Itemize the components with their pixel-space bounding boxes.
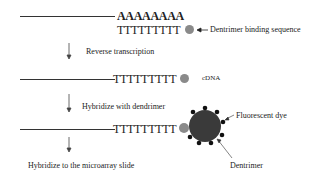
diagram-graphics [0, 0, 322, 182]
